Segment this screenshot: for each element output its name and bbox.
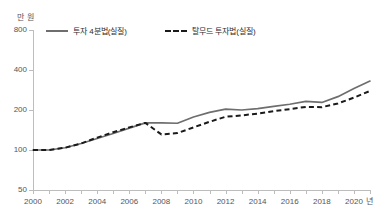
series-line-investment-quarter-method — [33, 81, 370, 150]
x-axis-unit-label: 년 — [366, 197, 373, 206]
series-line-talmud-method — [33, 91, 370, 150]
series-plot — [0, 0, 382, 224]
line-chart: 만 원 투자 4분법(실질) 탈무드 투자법(실질) 8004002001005… — [0, 0, 382, 224]
